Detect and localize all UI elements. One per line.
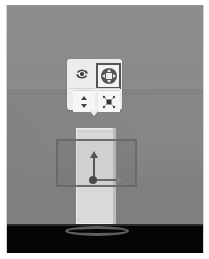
scale-icon (102, 95, 116, 109)
height-tool-button[interactable] (73, 90, 95, 112)
object-top-edge (79, 131, 113, 132)
scale-tool-button[interactable] (98, 90, 120, 112)
rotate-icon (75, 67, 89, 81)
rotate-tool-button[interactable] (71, 63, 93, 85)
object-placement-ring (65, 226, 129, 236)
move-icon (100, 67, 118, 85)
y-axis-arrow-head-icon[interactable] (90, 151, 98, 158)
move-tool-button[interactable] (96, 63, 121, 89)
transform-toolbar (67, 59, 122, 110)
toolbar-pointer (89, 110, 99, 116)
x-axis-arrow-head-icon[interactable] (117, 177, 122, 183)
height-arrows-icon (79, 95, 89, 109)
x-axis-arrow[interactable] (96, 179, 118, 181)
toolbar-divider (69, 88, 120, 89)
gizmo-origin-handle[interactable] (89, 176, 97, 184)
